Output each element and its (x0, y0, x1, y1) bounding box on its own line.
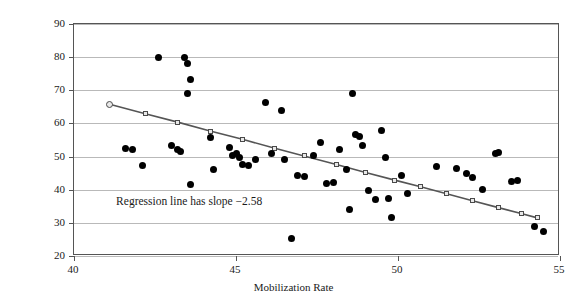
data-point (385, 195, 392, 202)
data-point (177, 148, 184, 155)
data-point (226, 144, 233, 151)
data-point (365, 187, 372, 194)
x-tick-mark (74, 256, 75, 261)
y-tick-label: 50 (39, 151, 65, 162)
data-point (404, 190, 411, 197)
y-tick-mark (69, 90, 74, 91)
data-point (336, 146, 343, 153)
regression-point-marker (143, 111, 148, 116)
data-point (495, 149, 502, 156)
x-axis-title: Mobilization Rate (0, 282, 587, 293)
gridline-y (74, 57, 558, 58)
data-point (382, 154, 389, 161)
data-point (359, 142, 366, 149)
data-point (155, 54, 162, 61)
data-point (398, 172, 405, 179)
gridline-y (74, 24, 558, 25)
data-point (356, 133, 363, 140)
regression-point-marker (334, 162, 339, 167)
data-point (301, 173, 308, 180)
regression-point-marker (240, 137, 245, 142)
data-point (187, 76, 194, 83)
y-tick-label: 20 (39, 250, 65, 261)
regression-point-marker (418, 184, 423, 189)
data-point (330, 179, 337, 186)
data-point (349, 90, 356, 97)
data-point (479, 186, 486, 193)
data-point (531, 223, 538, 230)
plot-area: Regression line has slope −2.58 (73, 23, 559, 255)
data-point (281, 156, 288, 163)
data-point (453, 165, 460, 172)
x-tick-label: 55 (539, 264, 579, 275)
data-point (288, 235, 295, 242)
data-point (317, 139, 324, 146)
y-tick-mark (69, 190, 74, 191)
regression-point-marker (470, 198, 475, 203)
data-point (378, 127, 385, 134)
data-point (262, 99, 269, 106)
regression-point-marker (444, 191, 449, 196)
y-tick-label: 30 (39, 217, 65, 228)
regression-point-marker (519, 211, 524, 216)
data-point (139, 162, 146, 169)
regression-point-marker (175, 120, 180, 125)
gridline-y (74, 223, 558, 224)
data-point (184, 60, 191, 67)
y-tick-mark (69, 57, 74, 58)
regression-point-marker (392, 178, 397, 183)
gridline-y (74, 256, 558, 257)
data-point (514, 177, 521, 184)
y-tick-label: 60 (39, 117, 65, 128)
y-tick-label: 70 (39, 84, 65, 95)
y-tick-mark (69, 223, 74, 224)
data-point (294, 172, 301, 179)
y-tick-mark (69, 157, 74, 158)
y-tick-label: 90 (39, 18, 65, 29)
x-tick-label: 45 (215, 264, 255, 275)
data-point (346, 206, 353, 213)
y-tick-mark (69, 24, 74, 25)
data-point (433, 163, 440, 170)
data-point (245, 162, 252, 169)
x-tick-mark (560, 256, 561, 261)
data-point (469, 174, 476, 181)
regression-point-marker (302, 153, 307, 158)
data-point (278, 107, 285, 114)
data-point (268, 150, 275, 157)
regression-point-marker (363, 170, 368, 175)
data-point (210, 166, 217, 173)
scatter-plot-figure: % Change in Weekly Wage, 1939–49 2030405… (0, 0, 587, 308)
data-point (343, 166, 350, 173)
x-tick-label: 50 (377, 264, 417, 275)
data-point (207, 134, 214, 141)
data-point (187, 181, 194, 188)
data-point (184, 90, 191, 97)
x-tick-mark (236, 256, 237, 261)
data-point (129, 146, 136, 153)
regression-slope-annotation: Regression line has slope −2.58 (116, 195, 262, 207)
gridline-y (74, 90, 558, 91)
y-tick-mark (69, 123, 74, 124)
data-point (310, 152, 317, 159)
regression-point-marker (208, 129, 213, 134)
y-tick-label: 40 (39, 184, 65, 195)
data-point (388, 214, 395, 221)
data-point (236, 154, 243, 161)
data-point (540, 228, 547, 235)
data-point (372, 196, 379, 203)
regression-point-marker (106, 101, 113, 108)
x-tick-mark (398, 256, 399, 261)
regression-point-marker (496, 205, 501, 210)
y-tick-label: 80 (39, 51, 65, 62)
x-tick-label: 40 (53, 264, 93, 275)
data-point (252, 156, 259, 163)
gridline-y (74, 123, 558, 124)
regression-point-marker (535, 215, 540, 220)
